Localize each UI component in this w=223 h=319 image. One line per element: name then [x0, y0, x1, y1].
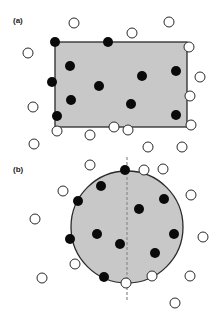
open-point — [170, 298, 180, 308]
filled-point — [96, 181, 106, 191]
open-point — [164, 17, 174, 27]
filled-point — [150, 248, 160, 258]
filled-point — [171, 66, 181, 76]
panel-a-label: (a) — [13, 16, 23, 25]
open-point — [85, 160, 95, 170]
open-point — [30, 214, 40, 224]
open-point — [143, 142, 153, 152]
open-point — [198, 232, 208, 242]
filled-point — [99, 272, 109, 282]
open-point — [58, 186, 68, 196]
panel-b-label: (b) — [13, 165, 24, 174]
filled-point — [103, 37, 113, 47]
filled-point — [47, 77, 57, 87]
open-point — [109, 122, 119, 132]
open-point — [29, 139, 39, 149]
filled-point — [137, 71, 147, 81]
filled-point — [134, 204, 144, 214]
open-point — [23, 48, 33, 58]
open-point — [158, 164, 168, 174]
open-point — [184, 42, 194, 52]
open-point — [123, 125, 133, 135]
filled-point — [50, 37, 60, 47]
open-point — [185, 271, 195, 281]
open-point — [69, 18, 79, 28]
open-point — [147, 271, 157, 281]
open-point — [186, 120, 196, 130]
panel-a: (a) — [13, 16, 205, 140]
filled-point — [66, 95, 76, 105]
panel-b: (b) — [13, 139, 208, 308]
filled-point — [65, 234, 75, 244]
filled-point — [171, 110, 181, 120]
open-point — [70, 259, 80, 269]
open-point — [37, 273, 47, 283]
open-point — [52, 126, 62, 136]
filled-point — [159, 194, 169, 204]
filled-point — [115, 239, 125, 249]
filled-point — [92, 229, 102, 239]
open-point — [85, 130, 95, 140]
open-point — [185, 91, 195, 101]
open-point — [28, 102, 38, 112]
open-point — [139, 165, 149, 175]
filled-point — [126, 99, 136, 109]
filled-point — [94, 81, 104, 91]
diagram-canvas: (a) (b) — [0, 0, 223, 319]
rectangle-region — [55, 42, 187, 127]
open-point — [127, 28, 137, 38]
filled-point — [52, 111, 62, 121]
filled-point — [65, 61, 75, 71]
open-point — [177, 142, 187, 152]
filled-point — [120, 165, 130, 175]
open-point — [121, 278, 131, 288]
open-point — [195, 72, 205, 82]
open-point — [186, 190, 196, 200]
filled-point — [169, 229, 179, 239]
filled-point — [73, 196, 83, 206]
